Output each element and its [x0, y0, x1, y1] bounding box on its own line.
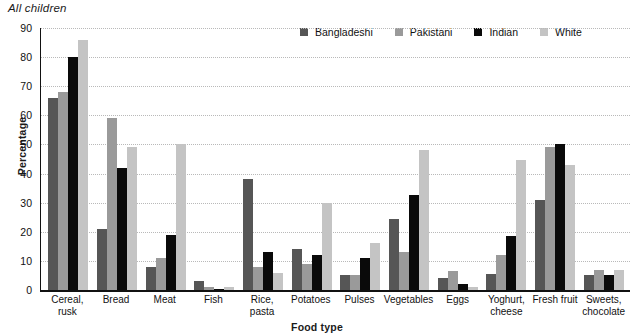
- bar: [117, 168, 127, 290]
- bar-group: [93, 28, 142, 290]
- bar-group: [433, 28, 482, 290]
- x-tick-label: Pulses: [335, 294, 384, 317]
- bar: [273, 273, 283, 290]
- x-tick-label-line: Meat: [140, 294, 189, 306]
- bar: [496, 255, 506, 290]
- bar: [322, 203, 332, 290]
- y-axis-ticks: 0102030405060708090: [6, 0, 32, 335]
- x-tick-label: Rice,pasta: [238, 294, 287, 317]
- x-tick-label: Fish: [189, 294, 238, 317]
- bar: [565, 165, 575, 290]
- x-tick-label-line: Pulses: [335, 294, 384, 306]
- bar: [253, 267, 263, 290]
- x-tick-label: Meat: [140, 294, 189, 317]
- bar: [545, 147, 555, 290]
- bar-group: [531, 28, 580, 290]
- bar: [594, 270, 604, 290]
- bar: [194, 281, 204, 290]
- y-tick-label: 90: [8, 23, 32, 34]
- x-axis-tick-labels: Cereal,ruskBreadMeatFishRice,pastaPotato…: [40, 294, 630, 317]
- bar: [448, 271, 458, 290]
- y-tick-label: 30: [8, 197, 32, 208]
- x-tick-label: Cereal,rusk: [43, 294, 92, 317]
- x-tick-label: Eggs: [433, 294, 482, 317]
- bar: [48, 98, 58, 290]
- bar: [166, 235, 176, 290]
- x-tick-label-line: cheese: [482, 306, 531, 318]
- bar: [176, 144, 186, 290]
- bar: [506, 236, 516, 290]
- x-axis-line: [40, 290, 630, 292]
- bar-group: [336, 28, 385, 290]
- bar: [312, 255, 322, 290]
- y-tick-label: 0: [8, 285, 32, 296]
- x-tick-label-line: Fish: [189, 294, 238, 306]
- x-tick-label-line: Eggs: [433, 294, 482, 306]
- bar: [292, 249, 302, 290]
- x-tick-label: Bread: [92, 294, 141, 317]
- y-tick-label: 40: [8, 168, 32, 179]
- bar: [389, 219, 399, 290]
- bar: [555, 144, 565, 290]
- bar: [419, 150, 429, 290]
- bar: [370, 243, 380, 290]
- bar: [438, 278, 448, 290]
- x-tick-label-line: Potatoes: [286, 294, 335, 306]
- bar-group: [579, 28, 628, 290]
- bar: [68, 57, 78, 290]
- bar-group: [239, 28, 288, 290]
- bar: [350, 275, 360, 290]
- y-tick-label: 20: [8, 227, 32, 238]
- bar-group: [190, 28, 239, 290]
- x-tick-label-line: pasta: [238, 306, 287, 318]
- y-tick-label: 80: [8, 52, 32, 63]
- bar: [78, 40, 88, 290]
- bar: [604, 275, 614, 290]
- y-tick-label: 60: [8, 110, 32, 121]
- x-tick-label-line: Cereal,: [43, 294, 92, 306]
- bar-group: [44, 28, 93, 290]
- bar: [535, 200, 545, 290]
- bar: [409, 195, 419, 290]
- bar: [156, 258, 166, 290]
- bar: [146, 267, 156, 290]
- bar-chart: All children BangladeshiPakistaniIndianW…: [0, 0, 634, 335]
- y-tick-label: 50: [8, 139, 32, 150]
- x-tick-label-line: Sweets,: [579, 294, 628, 306]
- bar: [486, 274, 496, 290]
- x-tick-label-line: Fresh fruit: [531, 294, 580, 306]
- bar: [516, 160, 526, 290]
- bar-group: [141, 28, 190, 290]
- bar: [263, 252, 273, 290]
- x-tick-label-line: Bread: [92, 294, 141, 306]
- bar: [302, 264, 312, 290]
- bar: [107, 118, 117, 290]
- y-tick-label: 10: [8, 256, 32, 267]
- x-tick-label-line: Vegetables: [384, 294, 434, 306]
- x-tick-label: Sweets,chocolate: [579, 294, 628, 317]
- x-axis-title: Food type: [0, 321, 634, 333]
- bar-group: [287, 28, 336, 290]
- x-tick-label-line: Yoghurt,: [482, 294, 531, 306]
- x-tick-label: Vegetables: [384, 294, 434, 317]
- bar: [58, 92, 68, 290]
- x-tick-label: Yoghurt,cheese: [482, 294, 531, 317]
- bar: [340, 275, 350, 290]
- x-tick-label: Potatoes: [286, 294, 335, 317]
- bar-group: [385, 28, 434, 290]
- bar-groups: [41, 28, 630, 290]
- bar: [399, 252, 409, 290]
- plot-area: [40, 28, 630, 290]
- bar: [127, 147, 137, 290]
- bar: [584, 275, 594, 290]
- bar: [360, 258, 370, 290]
- x-tick-label-line: chocolate: [579, 306, 628, 318]
- x-tick-label-line: rusk: [43, 306, 92, 318]
- bar: [97, 229, 107, 290]
- bar: [243, 179, 253, 290]
- y-tick-label: 70: [8, 81, 32, 92]
- bar-group: [482, 28, 531, 290]
- bar: [614, 270, 624, 290]
- x-tick-label: Fresh fruit: [531, 294, 580, 317]
- x-tick-label-line: Rice,: [238, 294, 287, 306]
